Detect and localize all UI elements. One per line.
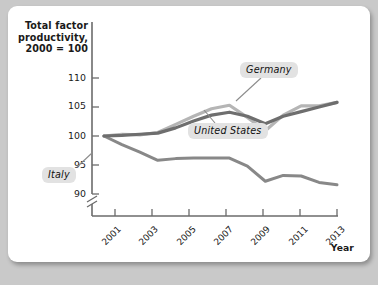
series-label-italy: Italy [42,167,76,183]
series-label-germany: Germany [240,62,298,78]
series-label-united-states: United States [188,123,268,139]
chart-plot-area: Total factor productivity, 2000 = 100 11… [8,6,370,262]
series-line-italy [104,136,337,185]
leader-line-germany [236,78,261,101]
leader-line-italy [77,153,92,167]
axis-break-mark-upper-icon [87,196,97,202]
chart-card: Total factor productivity, 2000 = 100 11… [8,6,370,262]
